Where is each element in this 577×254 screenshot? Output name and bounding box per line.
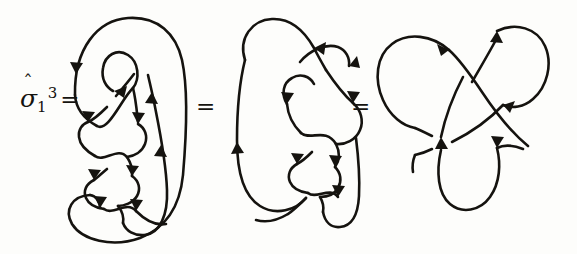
d3-mid-up-right: [472, 38, 497, 82]
arrowhead-d1-right-up-upper: [145, 92, 158, 104]
arrowhead-d2-inner-left-down: [281, 92, 294, 104]
d3-top-left-over: [449, 50, 528, 146]
d3-left-crossing-tail: [413, 155, 415, 172]
diagram-standard-trefoil: [378, 27, 549, 210]
arrowhead-d2-mid-right: [329, 155, 342, 167]
arrowhead-d2-lower-down: [332, 185, 345, 197]
d3-right-tail-left-end: [415, 149, 432, 155]
right-loop-upper: [127, 124, 146, 157]
d2-lower-left-loop: [289, 164, 308, 193]
d3-right-lobe: [497, 27, 549, 107]
diagram-intermediate-trefoil: [231, 19, 362, 227]
d2-bottom-left-close: [256, 214, 288, 221]
arrowhead-d1-right-up-lower: [154, 145, 167, 157]
arrowhead-d1-crossing3-right: [126, 165, 139, 176]
left-loop-upper: [79, 122, 95, 156]
d2-left-outer-loop: [243, 19, 326, 70]
d3-left-tail: [415, 128, 432, 136]
arrowhead-d2-left-up: [231, 142, 244, 154]
arrowhead-d3-top-right: [490, 31, 503, 43]
d3-bottom-right-up: [497, 146, 523, 149]
d3-bottom-lobe: [438, 148, 499, 210]
arrowhead-d2-top-far-right: [349, 56, 360, 68]
outer-closure-arc: [69, 18, 186, 243]
crossing-1-over: [97, 88, 133, 127]
arrowhead-d3-bottom-left-up: [435, 137, 448, 149]
d2-right-upper-lobe: [336, 103, 362, 144]
knot-diagrams-canvas: [0, 0, 577, 254]
arrowhead-d1-crossing1-right: [132, 112, 145, 124]
arrowhead-d1-left-down: [70, 62, 83, 74]
d3-mid-down: [441, 77, 463, 137]
crossing-2-over: [95, 153, 127, 158]
d3-left-lobe: [378, 37, 449, 128]
d2-lower-crossing-under: [320, 197, 323, 212]
diagram-braid-closure: [69, 18, 186, 243]
d2-mid-crossing-over: [301, 133, 336, 144]
d2-top-diagonal-over: [326, 70, 353, 103]
d2-bottom-arc: [288, 198, 306, 214]
d2-inner-left-down: [287, 104, 301, 133]
bottom-arc-outer: [123, 223, 145, 235]
inner-top-arc: [103, 52, 138, 91]
arrowhead-d2-right-lobe-down: [347, 91, 360, 103]
knot-equivalence-figure: ˆ σ 13= = =: [0, 0, 577, 254]
left-upper-strand: [75, 95, 97, 126]
